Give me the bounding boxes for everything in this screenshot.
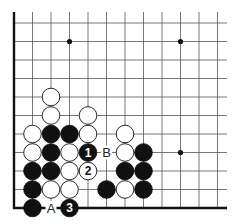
black-stone <box>24 162 42 180</box>
star-point-icon <box>178 39 183 44</box>
move-number: 3 <box>66 201 73 215</box>
star-point-icon <box>67 39 72 44</box>
white-stone <box>116 125 134 143</box>
black-stone <box>24 199 42 217</box>
white-stone <box>61 144 79 162</box>
black-stone <box>98 181 116 199</box>
black-stone <box>61 125 79 143</box>
white-stone <box>79 125 97 143</box>
black-stone <box>42 144 60 162</box>
move-number: 1 <box>85 146 92 160</box>
white-stone <box>42 107 60 125</box>
go-board-diagram: 123 AB <box>0 0 240 224</box>
white-stone <box>116 181 134 199</box>
point-label-b: B <box>102 145 111 160</box>
white-stone <box>42 181 60 199</box>
black-stone <box>135 144 153 162</box>
black-stone: 3 <box>61 199 79 217</box>
black-stone <box>42 125 60 143</box>
black-stone <box>24 181 42 199</box>
white-stone <box>61 181 79 199</box>
white-stone <box>42 88 60 106</box>
point-label-a: A <box>47 201 56 216</box>
white-stone <box>61 162 79 180</box>
black-stone <box>135 162 153 180</box>
white-stone <box>79 107 97 125</box>
black-stone <box>116 162 134 180</box>
black-stone <box>42 162 60 180</box>
black-stone: 1 <box>79 144 97 162</box>
star-point-icon <box>178 150 183 155</box>
white-stone <box>24 144 42 162</box>
move-number: 2 <box>85 164 92 178</box>
white-stone <box>24 125 42 143</box>
black-stone <box>135 181 153 199</box>
white-stone: 2 <box>79 162 97 180</box>
white-stone <box>116 144 134 162</box>
